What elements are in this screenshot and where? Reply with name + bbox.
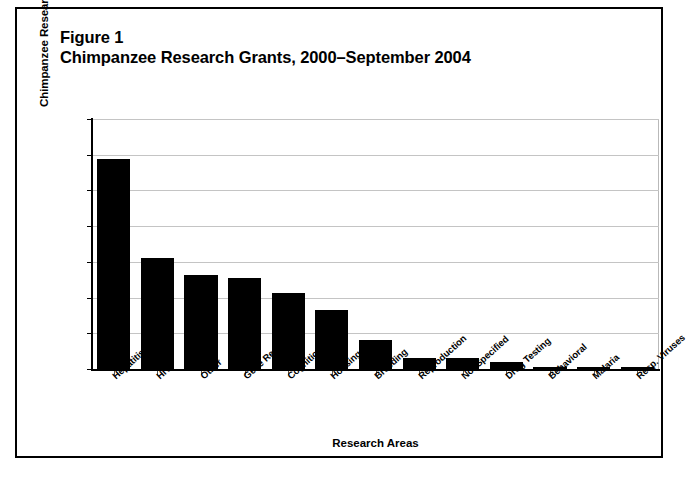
bar[interactable] [97,159,130,369]
bar[interactable] [184,275,217,369]
bar-slot [441,119,485,369]
figure-title-block: Figure 1 Chimpanzee Research Grants, 200… [60,27,471,67]
bar-series [92,119,659,369]
bar-slot [615,119,659,369]
figure-number-label: Figure 1 [60,27,471,47]
chart-plot-wrapper: 05101520253035 Hepatitis VirusesHIVOther… [92,119,659,369]
bar[interactable] [228,278,261,369]
bar-slot [223,119,267,369]
figure-frame: Figure 1 Chimpanzee Research Grants, 200… [15,7,663,458]
y-axis-title: Chimpanzee Research Grants, by Percentag… [38,0,52,125]
figure-title-text: Chimpanzee Research Grants, 2000–Septemb… [60,47,471,67]
bar-slot [354,119,398,369]
bar-slot [572,119,616,369]
bar-slot [92,119,136,369]
x-axis-title: Research Areas [92,437,659,449]
bar-slot [485,119,529,369]
bar-slot [397,119,441,369]
bar-slot [310,119,354,369]
bar-slot [528,119,572,369]
bar-slot [179,119,223,369]
